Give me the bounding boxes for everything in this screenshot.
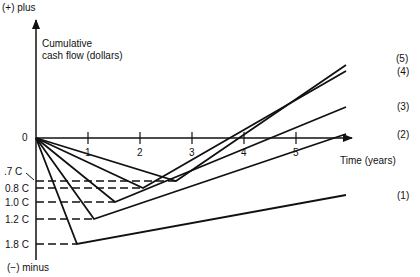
tick-label-4: 4	[241, 147, 247, 158]
y-bottom-label: (−) minus	[7, 262, 49, 273]
tick-label-5: 5	[293, 147, 299, 158]
y-axis-title-line2: cash flow (dollars)	[42, 50, 123, 61]
series-label-1: (1)	[397, 190, 409, 201]
y-top-label: (+) plus	[2, 2, 36, 13]
x-axis-title: Time (years)	[340, 155, 396, 166]
level-label-18: 1.8 C	[5, 239, 29, 250]
y-axis-title-line1: Cumulative	[42, 38, 92, 49]
level-label-10: 1.0 C	[5, 197, 29, 208]
series-label-4: (4)	[397, 66, 409, 77]
level-label-07: .7 C	[4, 166, 22, 177]
series-label-2: (2)	[397, 129, 409, 140]
tick-label-3: 3	[189, 147, 195, 158]
level-label-12: 1.2 C	[5, 214, 29, 225]
series-5	[36, 65, 346, 181]
tick-label-1: 1	[85, 147, 91, 158]
series-label-3: (3)	[397, 101, 409, 112]
origin-label: 0	[22, 132, 28, 143]
level-label-08: 0.8 C	[5, 183, 29, 194]
series-label-5: (5)	[396, 53, 408, 64]
tick-label-2: 2	[137, 147, 143, 158]
